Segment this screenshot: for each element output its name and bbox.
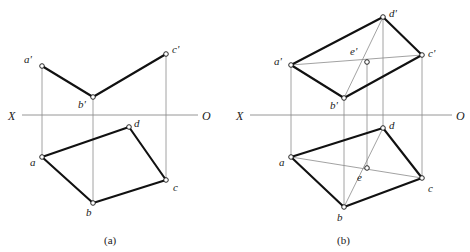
vertex-label-b-prime-a: b' (78, 99, 86, 110)
vertex-a-prime-diagram-b (289, 63, 294, 68)
figure-canvas: X O a' c' b' a b c d X O a' d' c' b' e' … (0, 0, 470, 252)
vertex-label-a-prime-b: a' (274, 56, 282, 67)
diagram-a (22, 52, 198, 206)
vertex-c-diagram-b (420, 176, 425, 181)
axis-label-o-a: O (202, 110, 211, 122)
vertex-label-b-a: b (86, 207, 92, 218)
vertex-label-c-prime-b: c' (428, 48, 435, 59)
vertex-c-prime-diagram-b (420, 53, 425, 58)
edge-ap-dp-diagram-b (291, 17, 383, 65)
edge-dp-cp-diagram-b (383, 17, 422, 55)
vertex-label-a-a: a (30, 157, 36, 168)
projection-figure (0, 0, 470, 252)
vertex-label-d-b: d (389, 120, 395, 131)
vertex-a-diagram-b (289, 155, 294, 160)
vertex-e-prime-diagram-b (365, 60, 370, 65)
vertex-d-diagram-b (381, 126, 386, 131)
vertex-label-c-a: c (173, 182, 178, 193)
edge-ap-bp-diagram-a (42, 66, 93, 97)
edge-c-d-diagram-a (129, 127, 166, 180)
vertex-label-e-b: e (357, 172, 362, 183)
vertex-label-d-a: d (134, 118, 140, 129)
vertex-e-diagram-b (365, 166, 370, 171)
diagram-b (250, 15, 452, 210)
vertex-label-d-prime-b: d' (389, 8, 397, 19)
edge-bp-cp-diagram-a (93, 54, 166, 97)
diagonal-bp-dp-diagram-b (344, 17, 383, 98)
vertex-a-diagram-a (40, 155, 45, 160)
vertex-d-prime-diagram-b (381, 15, 386, 20)
vertex-b-diagram-b (342, 205, 347, 210)
vertex-label-e-prime-b: e' (350, 46, 357, 57)
edge-c-b-diagram-b (344, 178, 422, 207)
edge-b-c-diagram-a (93, 180, 166, 203)
vertex-b-prime-diagram-a (91, 95, 96, 100)
vertex-c-diagram-a (164, 178, 169, 183)
edge-a-d-diagram-b (291, 128, 383, 157)
vertex-label-c-b: c (428, 183, 433, 194)
edge-d-c-diagram-b (383, 128, 422, 178)
caption-a: (a) (104, 235, 116, 246)
axis-label-o-b: O (456, 110, 465, 122)
vertex-label-a-prime-a: a' (24, 54, 32, 65)
vertex-a-prime-diagram-a (40, 64, 45, 69)
edge-a-b-diagram-a (42, 157, 93, 203)
vertex-label-b-b: b (337, 212, 343, 223)
vertex-label-a-b: a (279, 157, 285, 168)
vertex-label-b-prime-b: b' (330, 100, 338, 111)
edge-bp-ap-diagram-b (291, 65, 344, 98)
axis-label-x-b: X (236, 110, 243, 122)
vertex-label-c-prime-a: c' (172, 44, 179, 55)
vertex-d-diagram-a (127, 125, 132, 130)
vertex-c-prime-diagram-a (164, 52, 169, 57)
edge-d-a-diagram-a (42, 127, 129, 157)
axis-label-x-a: X (8, 110, 15, 122)
caption-b: (b) (337, 235, 350, 246)
vertex-b-prime-diagram-b (342, 96, 347, 101)
vertex-b-diagram-a (91, 201, 96, 206)
